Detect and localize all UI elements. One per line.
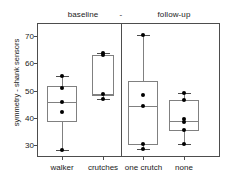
data-point	[141, 93, 145, 97]
y-tick-label-50: 50	[16, 87, 34, 96]
x-tick-mark-walker	[62, 157, 63, 160]
y-tick-label-40: 40	[16, 114, 34, 123]
y-tick-label-70: 70	[16, 32, 34, 41]
whisker-lower-walker	[62, 122, 63, 149]
whisker-upper-one-crutch	[143, 35, 144, 81]
box-one-crutch	[128, 81, 158, 145]
boxplot-figure: baseline - follow-up symmetry - shank se…	[0, 0, 229, 182]
data-point	[182, 128, 186, 132]
data-point	[182, 91, 186, 95]
box-crutches	[92, 55, 114, 97]
data-point	[101, 92, 105, 96]
x-tick-mark-none	[184, 157, 185, 160]
x-tick-label-none: none	[159, 163, 209, 172]
data-point	[141, 104, 145, 108]
panel-divider	[121, 23, 122, 157]
y-tick-label-30: 30	[16, 141, 34, 150]
data-point	[101, 97, 105, 101]
data-point	[182, 98, 186, 102]
data-point	[60, 148, 64, 152]
x-tick-mark-crutches	[103, 157, 104, 160]
x-tick-mark-one-crutch	[143, 157, 144, 160]
box-none	[169, 100, 199, 131]
y-tick-label-60: 60	[16, 59, 34, 68]
data-point	[60, 86, 64, 90]
panel-header-followup: follow-up	[136, 10, 212, 19]
data-point	[101, 53, 105, 57]
panel-header-separator: -	[106, 10, 136, 19]
data-point	[182, 120, 186, 124]
